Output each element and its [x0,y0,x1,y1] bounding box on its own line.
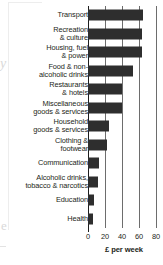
bar [88,121,109,132]
bar-row: Recreation & culture [0,25,163,44]
bar-row: Housing, fuel & power [0,43,163,62]
x-tick-label-60: 60 [135,232,143,241]
category-label: Household goods & services [2,118,88,134]
bar [88,65,133,76]
bar-row: Miscellaneous goods & services [0,99,163,118]
bar [88,139,107,150]
bar-row: Communication [0,154,163,173]
x-axis-ticks: 020406080 [0,232,163,244]
bar-row: Restaurants & hotels [0,80,163,99]
bar [88,47,142,58]
category-label: Communication [2,159,88,167]
category-label: Recreation & culture [2,26,88,42]
category-label: Housing, fuel & power [2,44,88,60]
category-label: Alcoholic drinks, tobacco & narcotics [2,174,88,190]
x-tick-label-0: 0 [86,232,90,241]
bar [88,84,122,95]
plot-area: TransportRecreation & cultureHousing, fu… [0,0,163,265]
bar [88,213,93,224]
bar-row: Health [0,210,163,229]
bar-row: Food & non- alcoholic drinks [0,62,163,81]
category-label: Miscellaneous goods & services [2,100,88,116]
category-label: Health [2,215,88,223]
bar [88,158,99,169]
category-label: Food & non- alcoholic drinks [2,63,88,79]
category-label: Education [2,196,88,204]
x-axis-title: £ per week [88,245,160,254]
bar-row: Education [0,191,163,210]
bar [88,28,142,39]
x-tick-label-20: 20 [101,232,109,241]
category-label: Restaurants & hotels [2,81,88,97]
bar-rows: TransportRecreation & cultureHousing, fu… [0,6,163,228]
category-label: Clothing & footwear [2,137,88,153]
bar-row: Transport [0,6,163,25]
x-tick-label-40: 40 [118,232,126,241]
bar-row: Household goods & services [0,117,163,136]
bar [88,10,143,21]
bar-chart-figure: y e TransportRecreation & cultureHousing… [0,0,163,265]
bar [88,176,98,187]
x-tick-label-80: 80 [152,232,160,241]
bar [88,102,122,113]
bar-row: Clothing & footwear [0,136,163,155]
bar [88,195,94,206]
bar-row: Alcoholic drinks, tobacco & narcotics [0,173,163,192]
category-label: Transport [2,11,88,19]
